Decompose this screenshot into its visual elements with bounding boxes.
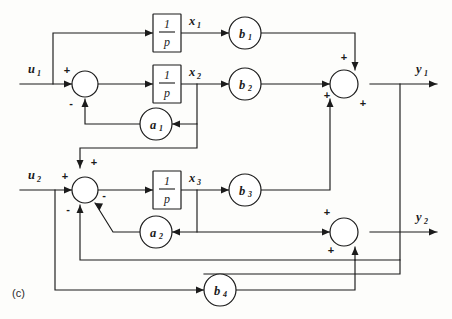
label-y2-text: y	[414, 210, 422, 224]
label-u2: u 2	[28, 168, 41, 184]
integrator-3-numerator: 1	[164, 174, 170, 188]
gain-b3-subscript: 3	[247, 190, 252, 199]
sign-sum2-bottom-minus: -	[66, 203, 70, 215]
label-u1: u 1	[28, 62, 41, 78]
wire-u2-branch-to-b4	[55, 190, 204, 290]
gain-block-b4[interactable]: b 4	[204, 274, 236, 306]
label-u2-subscript: 2	[36, 175, 41, 184]
gain-b2-subscript: 2	[247, 84, 252, 93]
wire-u1-branch-to-int1	[53, 33, 153, 84]
arrowhead-into-sumy1-left	[322, 81, 330, 88]
integrator-block-2[interactable]: 1 p	[153, 65, 181, 103]
sign-layer: + - + + - - + + + + +	[62, 51, 366, 256]
gain-a2-subscript: 2	[158, 232, 163, 241]
arrowhead-y2-output	[429, 229, 437, 236]
arrowhead-into-sumy1-top	[352, 62, 359, 70]
label-x2-text: x	[188, 65, 195, 79]
sign-sumy1-top-plus: +	[341, 51, 347, 63]
arrowhead-into-b1	[221, 30, 229, 37]
summing-junction-2[interactable]	[72, 177, 98, 203]
sign-sumy2-left-plus: +	[324, 206, 330, 218]
wire-a2-to-sum2	[95, 203, 140, 232]
label-y1-text: y	[414, 62, 422, 76]
gain-a1-label: a	[150, 118, 156, 132]
arrowhead-into-a1	[172, 121, 180, 128]
gain-b1-subscript: 1	[248, 33, 252, 42]
label-y2-subscript: 2	[423, 217, 428, 226]
integrator-block-3[interactable]: 1 p	[153, 171, 181, 209]
sign-sumy1-left-plus: +	[324, 89, 330, 101]
arrowhead-into-b4	[196, 287, 204, 294]
arrowhead-into-sum1-bottom	[82, 99, 89, 107]
label-u1-subscript: 1	[37, 69, 41, 78]
label-x3-subscript: 3	[196, 178, 201, 187]
label-x3-text: x	[188, 171, 195, 185]
arrowhead-into-int2	[145, 81, 153, 88]
block-diagram-canvas: 1 p 1 p 1 p b 1	[0, 0, 452, 319]
integrator-1-numerator: 1	[164, 17, 170, 31]
integrator-2-denominator: p	[163, 86, 170, 100]
label-y1-subscript: 1	[424, 69, 428, 78]
integrator-2-numerator: 1	[164, 68, 170, 82]
arrowhead-into-sum2-bottom	[77, 205, 84, 213]
label-x2-subscript: 2	[196, 72, 201, 81]
label-y2: y 2	[414, 210, 428, 226]
arrowhead-into-int3	[145, 187, 153, 194]
arrowhead-into-sum1	[64, 81, 72, 88]
label-u2-text: u	[28, 168, 35, 182]
wire-x2-tap-to-sum2	[80, 124, 197, 168]
panel-label: (c)	[12, 287, 25, 299]
arrowhead-into-sum2-diagonal	[95, 203, 103, 211]
gain-b4-subscript: 4	[222, 290, 227, 299]
summing-junction-y2[interactable]	[330, 218, 358, 246]
sign-sumy2-bottom-plus: +	[328, 244, 334, 256]
sign-sum2-top-plus: +	[91, 156, 97, 168]
label-y1: y 1	[414, 62, 428, 78]
gain-a1-subscript: 1	[159, 124, 163, 133]
wire-y1-tap-down	[355, 84, 400, 260]
gain-b1-label: b	[239, 27, 245, 41]
label-u1-text: u	[28, 62, 35, 76]
gain-b3-label: b	[239, 184, 245, 198]
arrowhead-into-sumy2-bottom	[352, 247, 359, 255]
wire-b3-to-sumy1	[261, 99, 330, 190]
integrator-1-denominator: p	[163, 35, 170, 49]
sign-sum1-bottom-minus: -	[69, 97, 73, 109]
arrowhead-into-b2	[221, 81, 229, 88]
summing-junctions	[72, 70, 358, 246]
block-diagram-figure: 1 p 1 p 1 p b 1	[0, 0, 452, 319]
gain-b2-label: b	[239, 78, 245, 92]
sign-sum1-left-plus: +	[64, 64, 70, 76]
integrator-3-denominator: p	[163, 192, 170, 206]
sign-sumy1-bottom-plus: +	[360, 97, 366, 109]
gain-a2-label: a	[150, 226, 156, 240]
gain-block-b2[interactable]: b 2	[229, 68, 261, 100]
arrowhead-into-sumy2-left	[322, 229, 330, 236]
label-x1-subscript: 1	[197, 21, 201, 30]
gain-b4-label: b	[214, 284, 220, 298]
sign-sum2-left-plus: +	[62, 170, 68, 182]
integrator-block-1[interactable]: 1 p	[153, 14, 181, 52]
label-x2: x 2	[188, 65, 201, 81]
label-x3: x 3	[188, 171, 201, 187]
gain-blocks: b 1 b 2 b 3 b 4 a 1	[140, 17, 261, 306]
summing-junction-y1[interactable]	[330, 70, 358, 98]
arrowhead-into-a2	[172, 229, 180, 236]
arrowhead-into-b3	[221, 187, 229, 194]
arrowhead-into-sum2-top	[77, 160, 84, 168]
wire-b4-to-sumy2	[236, 247, 355, 290]
arrowhead-into-int1	[145, 30, 153, 37]
sign-sum2-diagonal-minus: -	[102, 189, 106, 201]
label-x1: x 1	[188, 14, 201, 30]
gain-block-a1[interactable]: a 1	[140, 108, 172, 140]
wire-y2-rail	[204, 260, 400, 274]
gain-block-a2[interactable]: a 2	[140, 216, 172, 248]
label-x1-text: x	[188, 14, 195, 28]
gain-block-b3[interactable]: b 3	[229, 174, 261, 206]
arrowhead-into-sum2-left	[64, 187, 72, 194]
summing-junction-1[interactable]	[72, 71, 98, 97]
arrowhead-y1-output	[429, 81, 437, 88]
gain-block-b1[interactable]: b 1	[229, 17, 261, 49]
wire-a1-to-sum1	[85, 99, 140, 124]
